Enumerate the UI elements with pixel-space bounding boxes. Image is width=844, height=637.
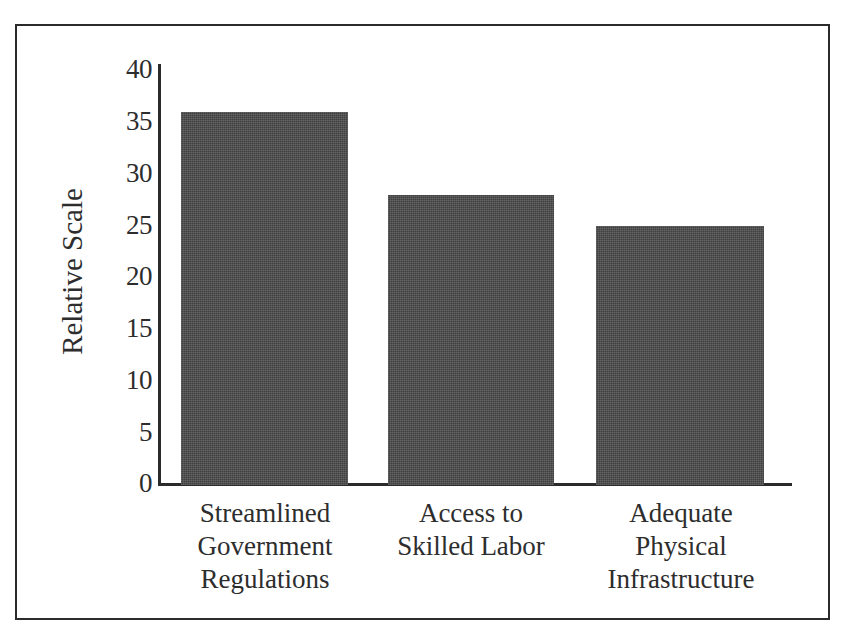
x-label-line: Adequate [572, 497, 790, 530]
x-label-line: Physical [572, 530, 790, 563]
x-label-line: Skilled Labor [365, 530, 577, 563]
x-label-line: Streamlined [155, 497, 375, 530]
x-label-line: Regulations [155, 563, 375, 596]
bar-adequate-physical-infrastructure [596, 226, 764, 485]
x-label-line: Infrastructure [572, 563, 790, 596]
bar-streamlined-government-regulations [181, 112, 348, 486]
bar-access-to-skilled-labor [388, 195, 554, 486]
chart-figure: Relative Scale 40 35 30 25 20 15 10 5 0 … [0, 0, 844, 637]
x-label-line: Government [155, 530, 375, 563]
x-axis-category-labels: Streamlined Government Regulations Acces… [0, 497, 844, 609]
x-label-adequate-physical-infrastructure: Adequate Physical Infrastructure [572, 497, 790, 596]
x-label-access-to-skilled-labor: Access to Skilled Labor [365, 497, 577, 563]
x-label-line: Access to [365, 497, 577, 530]
x-label-streamlined-government-regulations: Streamlined Government Regulations [155, 497, 375, 596]
